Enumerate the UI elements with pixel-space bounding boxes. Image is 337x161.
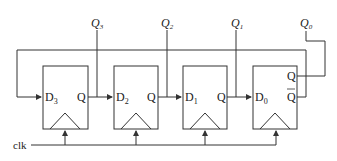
clock-triangle-0: [260, 113, 290, 129]
q1-pin-label: Q: [217, 90, 226, 104]
clock-triangle-2: [121, 113, 151, 129]
q2-pin-label: Q: [147, 90, 156, 104]
wire-q0-output: [297, 31, 325, 76]
q2-output-label: Q2: [161, 16, 174, 31]
d2-label: D2: [116, 90, 129, 106]
d3-label: D3: [45, 90, 58, 106]
d0-label: D0: [255, 90, 268, 106]
q0-pin-label: Q: [287, 69, 296, 83]
q0-bar-pin-label: Q: [287, 90, 296, 104]
q0-output-label: Q0: [300, 16, 313, 31]
shift-register-diagram: D3 D2 D1 D0 Q Q Q Q Q Q3 Q2 Q1 Q0 clk: [0, 0, 337, 161]
q3-pin-label: Q: [77, 90, 86, 104]
d1-label: D1: [185, 90, 198, 106]
q3-output-label: Q3: [91, 16, 104, 31]
clock-triangle-1: [190, 113, 220, 129]
clock-label: clk: [13, 139, 27, 151]
q1-output-label: Q1: [231, 16, 243, 31]
clock-triangle-3: [50, 113, 80, 129]
